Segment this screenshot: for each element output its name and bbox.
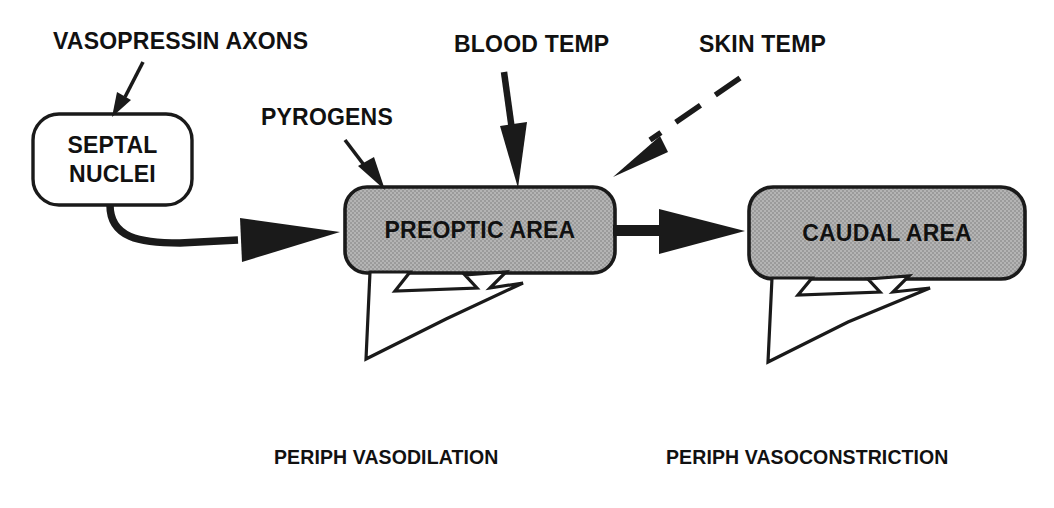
arrow-septal-to-preoptic bbox=[110, 205, 340, 262]
arrow-pyrogens-to-preoptic bbox=[345, 140, 385, 190]
input-label-vasopressin-axons: VASOPRESSIN AXONS bbox=[53, 30, 308, 53]
node-label-caudal-area: CAUDAL AREA bbox=[749, 187, 1025, 279]
thermoregulation-diagram: VASOPRESSIN AXONS PYROGENS BLOOD TEMP SK… bbox=[0, 0, 1054, 508]
lightning-bolt-preoptic bbox=[366, 272, 523, 359]
node-label-preoptic-area-text: PREOPTIC AREA bbox=[345, 219, 615, 242]
node-label-caudal-area-text: CAUDAL AREA bbox=[749, 222, 1025, 245]
node-label-preoptic-area: PREOPTIC AREA bbox=[345, 187, 615, 273]
input-label-blood-temp: BLOOD TEMP bbox=[454, 33, 609, 56]
lightning-bolt-caudal bbox=[768, 276, 930, 362]
node-label-septal-nuclei-line2: NUCLEI bbox=[33, 163, 192, 186]
arrow-vasopressin-to-septal bbox=[112, 62, 143, 117]
effector-line: PERIPH VASOCONSTRICTION bbox=[666, 445, 949, 470]
node-label-septal-nuclei-line1: SEPTAL bbox=[33, 134, 192, 157]
effector-list-preoptic: PERIPH VASODILATION SWEATING & PANTING A… bbox=[274, 396, 498, 508]
arrow-blood-temp-to-preoptic bbox=[500, 72, 527, 188]
arrow-skin-temp-to-preoptic bbox=[613, 78, 740, 177]
input-label-skin-temp: SKIN TEMP bbox=[699, 33, 826, 56]
input-label-pyrogens: PYROGENS bbox=[261, 106, 393, 129]
arrow-preoptic-to-caudal bbox=[613, 209, 745, 254]
effector-line: PERIPH VASODILATION bbox=[274, 445, 498, 470]
effector-list-caudal: PERIPH VASOCONSTRICTION SHIVERING INCREA… bbox=[666, 396, 949, 508]
node-label-septal-nuclei: SEPTAL NUCLEI bbox=[33, 114, 192, 205]
